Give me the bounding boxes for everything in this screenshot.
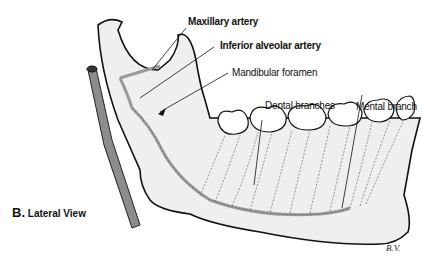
panel-letter: B.	[12, 205, 25, 220]
anatomy-figure: Maxillary artery Inferior alveolar arter…	[0, 0, 423, 266]
label-dental-branches: Dental branches	[265, 100, 335, 111]
label-mandibular-foramen: Mandibular foramen	[232, 67, 317, 78]
panel-title: Lateral View	[28, 208, 86, 219]
artist-signature: B.V.	[386, 243, 400, 253]
label-mental-branch: Mental branch	[356, 101, 417, 112]
mandible-illustration	[0, 0, 423, 266]
panel-caption: B. Lateral View	[12, 205, 86, 220]
label-maxillary-artery: Maxillary artery	[188, 16, 258, 27]
label-inferior-alveolar-artery: Inferior alveolar artery	[220, 40, 321, 51]
